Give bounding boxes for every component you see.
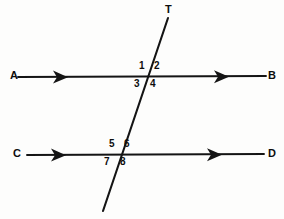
geometry-diagram: A B C D T 1 2 3 4 5 6 7 8 xyxy=(0,0,284,219)
endpoint-label-d: D xyxy=(268,148,276,159)
angle-label-2: 2 xyxy=(154,61,160,71)
angle-label-6: 6 xyxy=(124,139,130,149)
angle-label-5: 5 xyxy=(109,139,115,149)
angle-label-8: 8 xyxy=(120,157,126,167)
endpoint-label-a: A xyxy=(10,70,18,81)
angle-label-4: 4 xyxy=(150,79,156,89)
endpoint-label-t: T xyxy=(165,4,172,15)
angle-label-1: 1 xyxy=(139,61,145,71)
transversal-line-segment xyxy=(103,18,168,211)
endpoint-label-c: C xyxy=(13,148,21,159)
angle-label-3: 3 xyxy=(134,79,140,89)
geometry-canvas xyxy=(0,0,284,219)
endpoint-label-b: B xyxy=(268,70,276,81)
angle-label-7: 7 xyxy=(104,157,110,167)
